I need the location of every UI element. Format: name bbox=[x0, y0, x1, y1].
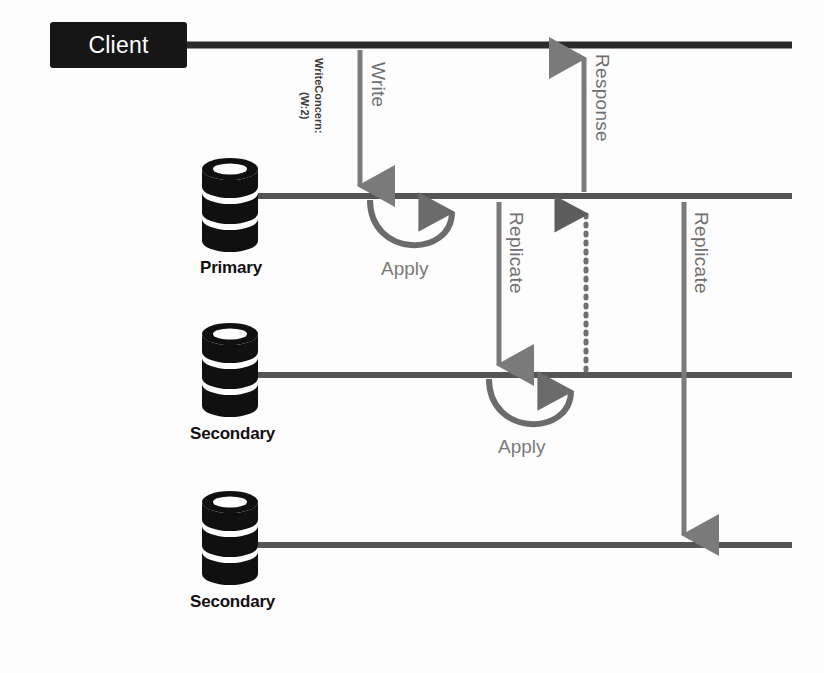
arrow-label-apply-primary: Apply bbox=[381, 258, 429, 280]
arrow-label-replicate-1: Replicate bbox=[505, 212, 527, 294]
database-icon-primary bbox=[202, 158, 258, 252]
arrow-label-write-concern-value: (W:2) bbox=[299, 92, 311, 119]
diagram-canvas bbox=[0, 0, 824, 673]
lifelines bbox=[186, 45, 792, 545]
node-label-secondary-1: Secondary bbox=[190, 424, 275, 444]
arrow-apply-secondary-1 bbox=[489, 379, 571, 424]
arrow-label-write-concern: WriteConcern: bbox=[313, 58, 325, 134]
arrow-label-response: Response bbox=[591, 54, 613, 142]
database-icon-secondary-1 bbox=[202, 323, 258, 417]
node-label-secondary-2: Secondary bbox=[190, 592, 275, 612]
arrow-apply-primary bbox=[370, 200, 452, 245]
client-actor-label: Client bbox=[50, 22, 187, 68]
arrow-label-apply-secondary-1: Apply bbox=[498, 436, 546, 458]
database-icon-secondary-2 bbox=[202, 491, 258, 585]
replication-sequence-diagram: Client Primary Secondary Secondary Write… bbox=[0, 0, 824, 673]
arrow-label-write: Write bbox=[367, 62, 389, 107]
node-label-primary: Primary bbox=[200, 258, 262, 278]
arrow-label-replicate-2: Replicate bbox=[690, 212, 712, 294]
